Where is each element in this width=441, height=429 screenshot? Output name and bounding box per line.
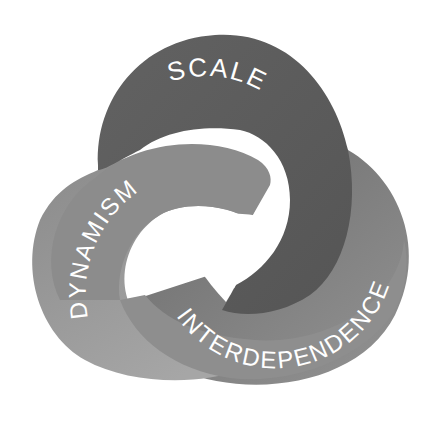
trefoil-diagram: SCALE DYNAMISM INTERDEPENDENCE <box>0 0 441 429</box>
trefoil-svg: SCALE DYNAMISM INTERDEPENDENCE <box>0 0 441 429</box>
